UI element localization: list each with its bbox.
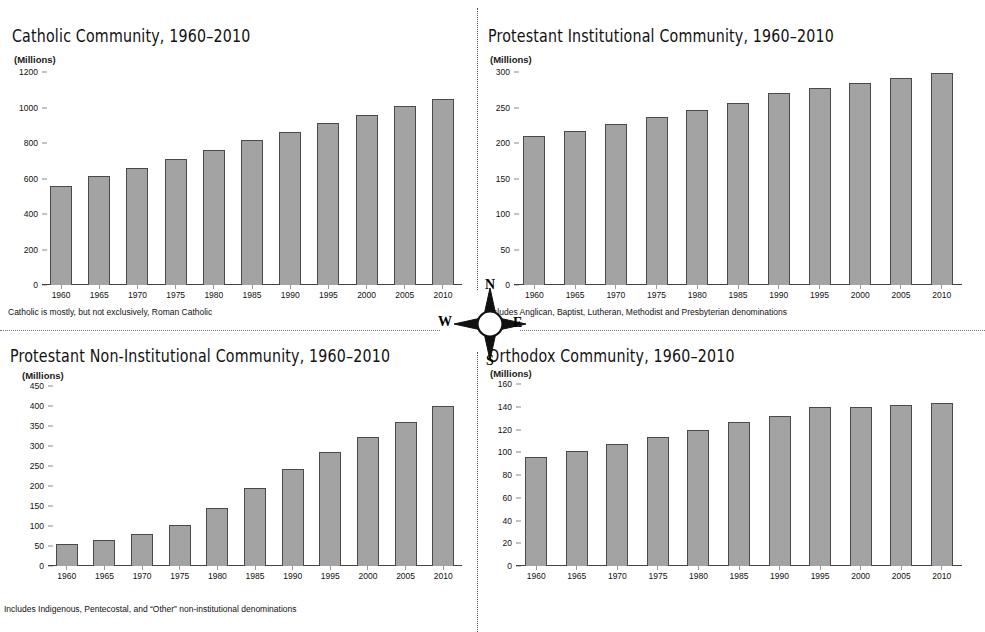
bar[interactable]	[931, 73, 953, 285]
bar[interactable]	[93, 540, 115, 566]
x-axis-tick-label: 2005	[387, 571, 425, 581]
x-axis-tick-label: 1980	[677, 290, 718, 300]
bar[interactable]	[890, 405, 912, 566]
y-axis-tick-label: 60	[503, 493, 516, 503]
y-axis-tick-label: 250	[30, 461, 48, 471]
bar-series	[514, 72, 962, 285]
bar[interactable]	[564, 131, 586, 285]
bar[interactable]	[126, 168, 148, 285]
bar[interactable]	[728, 422, 750, 566]
bar[interactable]	[605, 124, 627, 285]
bar[interactable]	[206, 508, 228, 566]
plot-area-protestant-institutional: 0501001502002503001960196519701975198019…	[514, 72, 962, 285]
bar[interactable]	[432, 406, 454, 566]
bar[interactable]	[169, 525, 191, 566]
x-axis-tick-label: 1965	[86, 571, 124, 581]
y-axis-tick-label: 50	[35, 541, 48, 551]
bar-slot	[677, 72, 718, 285]
bar[interactable]	[525, 457, 547, 566]
y-axis-tick-label: 0	[33, 280, 42, 290]
bar[interactable]	[50, 186, 72, 285]
y-axis-tick-label: 250	[496, 103, 514, 113]
bar[interactable]	[809, 407, 831, 566]
x-axis-tick-labels: 1960196519701975198019851990199520002005…	[42, 285, 462, 300]
horizontal-divider-right	[520, 330, 985, 331]
bar-slot	[759, 384, 800, 566]
bar[interactable]	[647, 437, 669, 566]
bar[interactable]	[809, 88, 831, 285]
x-axis-tick-label: 2010	[921, 290, 962, 300]
bar-slot	[597, 384, 638, 566]
y-axis-tick-label: 100	[30, 521, 48, 531]
bar[interactable]	[769, 416, 791, 566]
x-axis-tick-label: 2000	[349, 571, 387, 581]
y-axis-tick-label: 300	[30, 441, 48, 451]
bar[interactable]	[606, 444, 628, 566]
x-axis-tick-label: 1980	[678, 571, 719, 581]
x-axis-tick-label: 1970	[597, 571, 638, 581]
bar[interactable]	[686, 110, 708, 285]
bar-slot	[387, 386, 425, 566]
bar-slot	[311, 386, 349, 566]
x-axis-tick-labels: 1960196519701975198019851990199520002005…	[516, 566, 962, 581]
bar[interactable]	[88, 176, 110, 285]
x-axis-tick-label: 2000	[840, 290, 881, 300]
x-axis-tick-label: 1970	[595, 290, 636, 300]
bar[interactable]	[279, 132, 301, 285]
chart-panel-catholic: Catholic Community, 1960–2010 (Millions)…	[0, 0, 477, 330]
y-axis-tick-label: 450	[30, 381, 48, 391]
y-axis-unit-protestant-non-institutional: (Millions)	[22, 370, 64, 381]
bar[interactable]	[849, 83, 871, 285]
bar-slot	[161, 386, 199, 566]
y-axis-tick-label: 40	[503, 516, 516, 526]
y-axis-tick-label: 200	[496, 138, 514, 148]
bar[interactable]	[56, 544, 78, 566]
bar[interactable]	[165, 159, 187, 285]
bar-slot	[309, 72, 347, 285]
x-axis-tick-label: 1960	[42, 290, 80, 300]
plot-area-orthodox: 0204060801001201401601960196519701975198…	[516, 384, 962, 566]
bar[interactable]	[131, 534, 153, 566]
bar-slot	[118, 72, 156, 285]
y-axis-tick-label: 150	[496, 174, 514, 184]
bar-series	[42, 72, 462, 285]
bar[interactable]	[241, 140, 263, 285]
bar[interactable]	[394, 106, 416, 285]
plot-area-protestant-non-institutional: 0501001502002503003504004501960196519701…	[48, 386, 462, 566]
x-axis-tick-labels: 1960196519701975198019851990199520002005…	[48, 566, 462, 581]
y-axis-tick-label: 80	[503, 470, 516, 480]
bar[interactable]	[523, 136, 545, 285]
bar[interactable]	[244, 488, 266, 566]
x-axis-tick-label: 1985	[719, 571, 760, 581]
bar[interactable]	[727, 103, 749, 285]
bar-slot	[349, 386, 387, 566]
bar[interactable]	[357, 437, 379, 566]
bar[interactable]	[432, 99, 454, 285]
y-axis-tick-label: 120	[498, 425, 516, 435]
bar[interactable]	[646, 117, 668, 285]
bar[interactable]	[317, 123, 339, 285]
bar-series	[48, 386, 462, 566]
bar[interactable]	[850, 407, 872, 566]
y-axis-tick-label: 400	[24, 209, 42, 219]
bar[interactable]	[203, 150, 225, 285]
bar[interactable]	[395, 422, 417, 566]
x-axis-tick-label: 1965	[80, 290, 118, 300]
bar-slot	[42, 72, 80, 285]
bar[interactable]	[687, 430, 709, 567]
y-axis-tick-label: 800	[24, 138, 42, 148]
bar[interactable]	[931, 403, 953, 566]
y-axis-tick-label: 50	[501, 245, 514, 255]
chart-panel-orthodox: Orthodox Community, 1960–2010 (Millions)…	[478, 332, 985, 632]
bar[interactable]	[319, 452, 341, 566]
bar[interactable]	[566, 451, 588, 566]
bar[interactable]	[768, 93, 790, 285]
bar[interactable]	[282, 469, 304, 566]
bar[interactable]	[356, 115, 378, 285]
bar-slot	[799, 72, 840, 285]
x-axis-tick-label: 2005	[881, 290, 922, 300]
x-axis-tick-label: 1960	[516, 571, 557, 581]
bar-series	[516, 384, 962, 566]
x-axis-tick-labels: 1960196519701975198019851990199520002005…	[514, 285, 962, 300]
bar[interactable]	[890, 78, 912, 285]
